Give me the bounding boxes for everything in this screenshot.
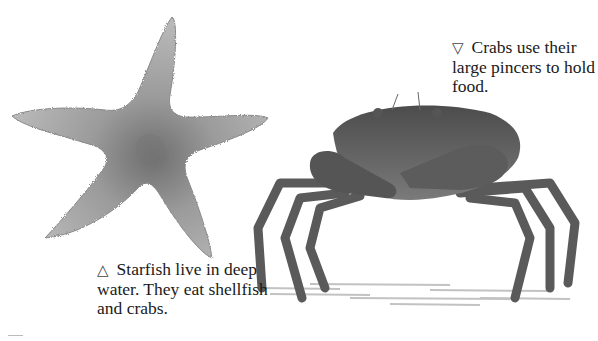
triangle-up-icon: △ [97,261,109,279]
page-rule [8,335,23,336]
starfish-illustration [0,0,280,262]
starfish-caption-text: Starfish live in deep water. They eat sh… [97,259,268,318]
triangle-down-icon: ▽ [452,39,464,57]
crab-illustration [250,88,598,333]
crab-caption: ▽Crabs use their large pincers to hold f… [452,38,598,96]
crab-caption-text: Crabs use their large pincers to hold fo… [452,37,595,96]
starfish-caption: △Starfish live in deep water. They eat s… [97,260,277,318]
